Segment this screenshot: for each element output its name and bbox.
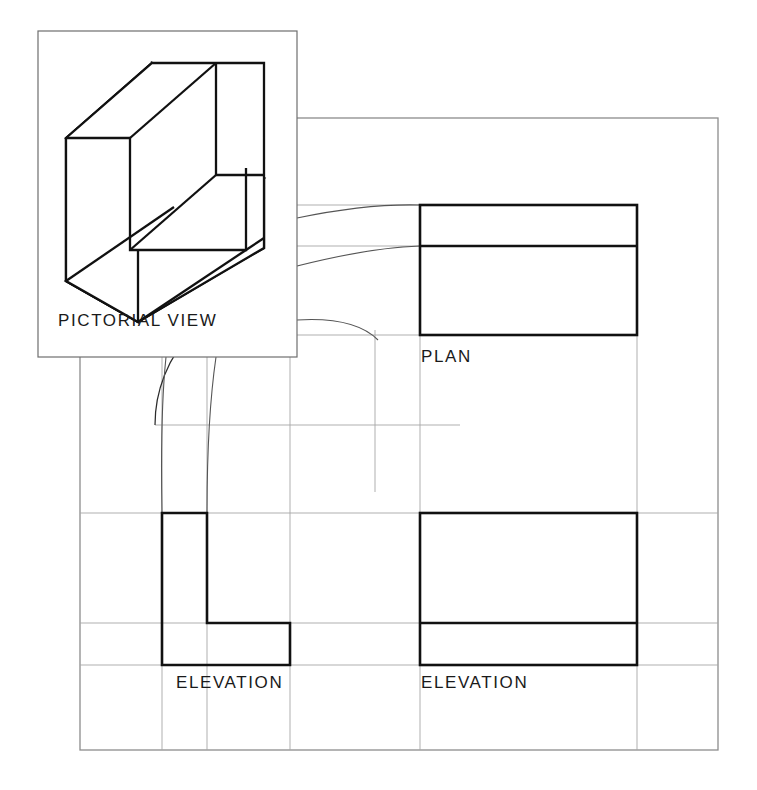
pictorial-view-group — [38, 31, 297, 357]
elevation-right-outline — [420, 513, 637, 665]
pictorial-view-label: PICTORIAL VIEW — [58, 311, 217, 331]
leader-to-mitre — [297, 320, 378, 340]
elevation-left-outline — [162, 513, 290, 665]
orthographic-projection-svg — [0, 0, 757, 790]
elevation-left-group — [162, 513, 290, 665]
leader-to-plan-divider — [297, 246, 420, 266]
plan-outline — [420, 205, 637, 335]
leader-to-plan-top — [297, 205, 420, 218]
elevation-left-label: ELEVATION — [176, 673, 283, 693]
plan-view-group — [420, 205, 637, 335]
drawing-canvas: PICTORIAL VIEW PLAN ELEVATION ELEVATION — [0, 0, 757, 790]
leader-to-elev-left-b — [207, 357, 216, 513]
elevation-right-label: ELEVATION — [421, 673, 528, 693]
plan-view-label: PLAN — [421, 347, 472, 367]
elevation-right-group — [420, 513, 637, 665]
